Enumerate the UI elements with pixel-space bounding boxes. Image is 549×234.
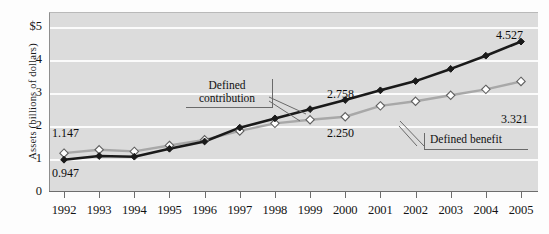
x-tick-2001	[380, 191, 381, 198]
y-axis-title: Assets (billions of dollars)	[27, 7, 38, 197]
x-tick-1996	[205, 191, 206, 198]
data-label-2005-db: 3.321	[501, 112, 528, 127]
data-label-2000-dc: 2.758	[327, 87, 354, 102]
data-label-1992-dc: 0.947	[52, 166, 79, 181]
x-tick-1993	[99, 191, 100, 198]
x-tick-2005	[521, 191, 522, 198]
x-tick-1998	[275, 191, 276, 198]
x-tick-2000	[345, 191, 346, 198]
chart-figure: Assets (billions of dollars) $5 4 3 2 1 …	[0, 0, 549, 234]
gridline-1	[50, 159, 538, 161]
gridline-2	[50, 126, 538, 128]
plot-inner	[50, 13, 538, 191]
x-tick-2003	[451, 191, 452, 198]
x-tick-2004	[486, 191, 487, 198]
gridline-4	[50, 60, 538, 62]
gridline-5	[50, 27, 538, 29]
x-tick-2002	[416, 191, 417, 198]
defined-contribution-callout: Defined contribution	[186, 79, 273, 108]
x-tick-1995	[169, 191, 170, 198]
x-axis-line	[49, 191, 538, 192]
data-label-2005-dc: 4.527	[496, 28, 523, 43]
plot-area	[49, 12, 538, 191]
x-tick-1992	[64, 191, 65, 198]
x-tick-label-2005: 2005	[498, 203, 544, 218]
gridline-3	[50, 93, 538, 95]
x-tick-1994	[134, 191, 135, 198]
defined-benefit-callout: Defined benefit	[424, 133, 528, 150]
data-label-1992-db: 1.147	[52, 126, 79, 141]
data-label-2000-db: 2.250	[327, 126, 354, 141]
x-tick-1997	[240, 191, 241, 198]
x-tick-1999	[310, 191, 311, 198]
